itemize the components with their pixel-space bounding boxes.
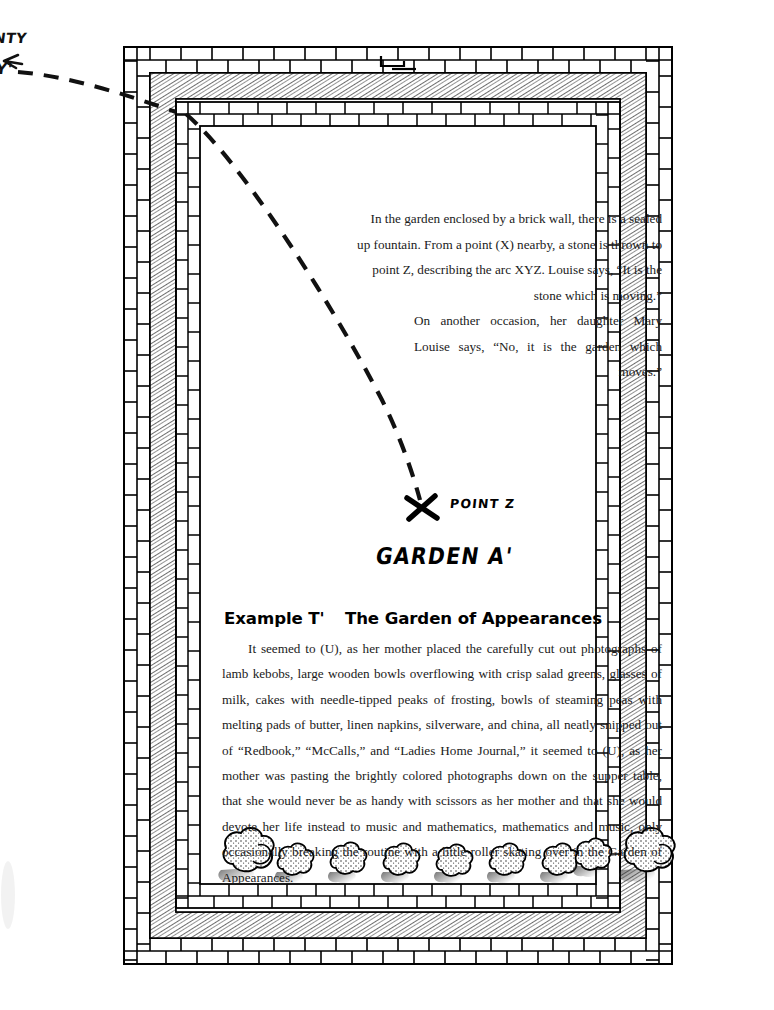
stone-passage-paragraph-2: On another occasion, her daughter Mary L…: [356, 308, 662, 385]
stone-passage-paragraph-1: In the garden enclosed by a brick wall, …: [356, 206, 662, 308]
stone-passage: In the garden enclosed by a brick wall, …: [356, 206, 662, 385]
margin-label-county: NTY: [0, 30, 28, 46]
point-z-label: POINT Z: [449, 496, 516, 511]
example-label: Example T': [224, 609, 325, 628]
garden-a-label: GARDEN A': [374, 543, 515, 569]
example-title: The Garden of Appearances: [345, 609, 602, 628]
paper-smudge: [1, 861, 15, 929]
page-canvas: NTY Y' In the garden enclosed by a brick…: [0, 0, 774, 1010]
example-heading: Example T' The Garden of Appearances: [224, 609, 602, 628]
example-body-text: It seemed to (U), as her mother placed t…: [222, 636, 662, 890]
